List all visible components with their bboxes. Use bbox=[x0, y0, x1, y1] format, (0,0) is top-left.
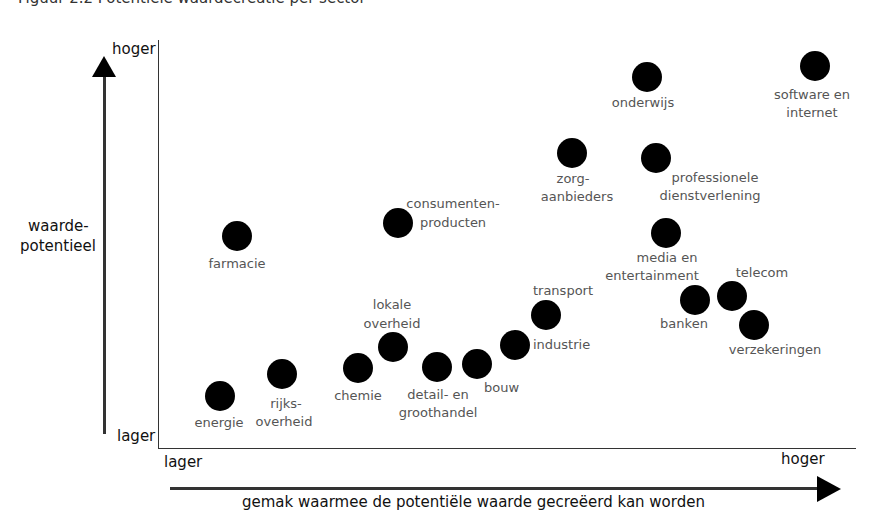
point-transport bbox=[531, 300, 561, 330]
x-arrow-shaft bbox=[170, 487, 820, 490]
label-detail-2: groothandel bbox=[399, 405, 478, 421]
label-telecom: telecom bbox=[736, 265, 788, 281]
y-axis-low: lager bbox=[117, 427, 155, 445]
y-axis-label-line1: waarde- bbox=[28, 217, 89, 235]
label-farmacie: farmacie bbox=[208, 256, 265, 272]
x-axis-label: gemak waarmee de potentiële waarde gecre… bbox=[242, 493, 705, 511]
label-energie: energie bbox=[194, 415, 243, 431]
point-zorgaanbieders bbox=[557, 138, 587, 168]
point-industrie bbox=[500, 330, 530, 360]
inner-y-axis bbox=[158, 40, 159, 449]
y-axis-high: hoger bbox=[112, 40, 156, 58]
label-prof-1: professionele bbox=[672, 170, 759, 186]
label-media-2: entertainment bbox=[605, 268, 699, 284]
arrow-right-icon bbox=[816, 475, 842, 503]
inner-x-axis bbox=[158, 448, 856, 449]
label-lokale-2: overheid bbox=[364, 316, 421, 332]
point-verzekeringen bbox=[739, 310, 769, 340]
point-rijksoverheid bbox=[267, 359, 297, 389]
point-bouw bbox=[462, 349, 492, 379]
label-detail-1: detail- en bbox=[407, 387, 469, 403]
label-onderwijs: onderwijs bbox=[612, 95, 674, 111]
point-media-entertainment bbox=[651, 218, 681, 248]
label-consument-2: producten bbox=[420, 215, 486, 231]
label-lokale-1: lokale bbox=[373, 297, 411, 313]
label-consument-1: consumenten- bbox=[406, 196, 499, 212]
label-verzekeringen: verzekeringen bbox=[729, 342, 822, 358]
figure-title-fragment: Figuur 2.2 Potentiële waardecreatie per … bbox=[18, 0, 366, 7]
label-software-1: software en bbox=[774, 87, 850, 103]
point-farmacie bbox=[222, 221, 252, 251]
label-chemie: chemie bbox=[334, 388, 382, 404]
label-media-1: media en bbox=[637, 250, 698, 266]
label-zorg-2: aanbieders bbox=[541, 189, 613, 205]
label-banken: banken bbox=[660, 316, 708, 332]
point-consumentenproducten bbox=[383, 208, 413, 238]
label-bouw: bouw bbox=[484, 380, 519, 396]
point-onderwijs bbox=[632, 62, 662, 92]
point-banken bbox=[680, 285, 710, 315]
point-professionele-dienstverlening bbox=[641, 143, 671, 173]
x-axis-high: hoger bbox=[781, 450, 825, 468]
label-prof-2: dienstverlening bbox=[660, 188, 761, 204]
point-telecom bbox=[717, 281, 747, 311]
point-energie bbox=[205, 381, 235, 411]
point-chemie bbox=[343, 353, 373, 383]
label-industrie: industrie bbox=[533, 337, 590, 353]
label-transport: transport bbox=[533, 283, 593, 299]
y-axis-label-line2: potentieel bbox=[20, 237, 96, 255]
y-arrow-shaft bbox=[103, 70, 106, 434]
label-software-2: internet bbox=[786, 105, 837, 121]
point-detail-groothandel bbox=[422, 352, 452, 382]
point-software-internet bbox=[800, 51, 830, 81]
label-zorg-1: zorg- bbox=[557, 171, 590, 187]
label-rijks-2: overheid bbox=[256, 414, 313, 430]
point-lokale-overheid bbox=[378, 332, 408, 362]
label-rijks-1: rijks- bbox=[270, 396, 302, 412]
x-axis-low: lager bbox=[164, 453, 202, 471]
